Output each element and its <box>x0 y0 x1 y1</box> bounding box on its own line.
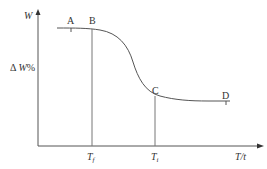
mass-loss-curve <box>57 28 230 101</box>
thermogravimetric-curve-diagram: W Δ W% A B C D Tf Ti T/t <box>0 0 267 169</box>
point-a-label: A <box>67 15 75 26</box>
x-axis-label: T/t <box>235 151 246 162</box>
point-d-label: D <box>222 90 229 101</box>
ti-label: Ti <box>151 151 159 164</box>
y-axis-arrow <box>36 9 41 15</box>
y-axis-label-w: W <box>24 10 34 21</box>
point-c-label: C <box>152 85 159 96</box>
point-b-label: B <box>89 15 96 26</box>
tf-label: Tf <box>87 151 96 164</box>
x-axis-arrow <box>257 144 264 149</box>
y-axis-label-delta-w: Δ W% <box>10 62 35 73</box>
